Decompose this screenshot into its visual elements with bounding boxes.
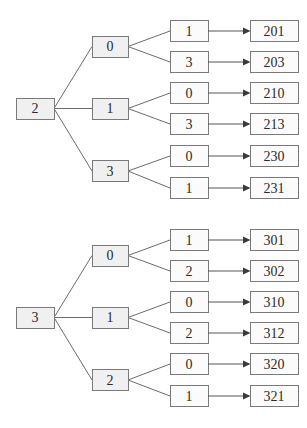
tree1-b1-c0-label: 0 <box>186 86 193 101</box>
tree1-b0-label: 0 <box>107 39 114 54</box>
edge-line <box>54 318 92 381</box>
arrow-head-icon <box>243 393 251 400</box>
tree2-b2-c0-label: 0 <box>186 357 193 372</box>
edge-line <box>128 364 170 380</box>
arrow-head-icon <box>243 237 251 244</box>
tree1-b0-c0-result: 201 <box>264 24 285 39</box>
tree1-b1-label: 1 <box>107 101 114 116</box>
tree2-b2-c1-result: 321 <box>264 389 285 404</box>
edge-line <box>54 109 92 172</box>
tree2-b2-c1-label: 1 <box>186 389 193 404</box>
tree2-b1-label: 1 <box>107 310 114 325</box>
arrow-head-icon <box>243 361 251 368</box>
tree1-b2-label: 3 <box>107 164 114 179</box>
edge-line <box>54 47 92 109</box>
tree2-b0-c1-label: 2 <box>186 264 193 279</box>
arrow-head-icon <box>243 185 251 192</box>
arrow-head-icon <box>243 90 251 97</box>
tree2-b1-c0-label: 0 <box>186 295 193 310</box>
arrow-head-icon <box>243 28 251 35</box>
tree-2: 3 0 1 301 2 302 1 0 <box>16 230 298 407</box>
tree1-b0-c0-label: 1 <box>186 24 193 39</box>
tree1-branch2-group: 3 0 230 1 231 <box>92 146 298 199</box>
tree1-b1-c1-result: 213 <box>264 117 285 132</box>
tree2-b1-c0-result: 310 <box>264 295 285 310</box>
tree1-b2-c1-label: 1 <box>186 181 193 196</box>
tree2-root-label: 3 <box>32 310 39 325</box>
arrow-head-icon <box>243 153 251 160</box>
arrow-head-icon <box>243 330 251 337</box>
tree1-b2-c1-result: 231 <box>264 181 285 196</box>
tree1-b1-c0-result: 210 <box>264 86 285 101</box>
tree2-b2-label: 2 <box>107 373 114 388</box>
edge-line <box>128 256 170 272</box>
tree1-branch1-group: 1 0 210 3 213 <box>92 83 298 135</box>
arrow-head-icon <box>243 59 251 66</box>
edge-line <box>128 380 170 396</box>
edge-line <box>128 240 170 256</box>
arrow-head-icon <box>243 268 251 275</box>
edge-line <box>128 109 170 125</box>
edge-line <box>128 171 170 188</box>
tree-diagrams: 2 0 1 201 3 203 1 0 <box>0 0 307 428</box>
arrow-head-icon <box>243 299 251 306</box>
tree2-b0-label: 0 <box>107 248 114 263</box>
tree1-b1-c1-label: 3 <box>186 117 193 132</box>
edge-line <box>128 93 170 109</box>
edge-line <box>128 318 170 334</box>
tree2-b2-c0-result: 320 <box>264 357 285 372</box>
edge-line <box>128 156 170 171</box>
tree-1: 2 0 1 201 3 203 1 0 <box>16 21 298 199</box>
tree1-b0-c1-result: 203 <box>264 55 285 70</box>
tree2-b1-c1-label: 2 <box>186 326 193 341</box>
arrow-head-icon <box>243 121 251 128</box>
tree2-b1-c1-result: 312 <box>264 326 285 341</box>
tree2-branch1-group: 1 0 310 2 312 <box>92 292 298 344</box>
tree2-b0-c0-result: 301 <box>264 233 285 248</box>
edge-line <box>128 302 170 318</box>
tree1-root-label: 2 <box>32 101 39 116</box>
tree2-b0-c0-label: 1 <box>186 233 193 248</box>
edge-line <box>128 47 170 63</box>
tree1-b2-c0-label: 0 <box>186 149 193 164</box>
tree2-b0-c1-result: 302 <box>264 264 285 279</box>
tree1-b2-c0-result: 230 <box>264 149 285 164</box>
tree1-b0-c1-label: 3 <box>186 55 193 70</box>
tree1-branch0-group: 0 1 201 3 203 <box>92 21 298 73</box>
tree2-branch2-group: 2 0 320 1 321 <box>92 354 298 407</box>
tree2-branch0-group: 0 1 301 2 302 <box>92 230 298 282</box>
edge-line <box>54 256 92 318</box>
edge-line <box>128 31 170 47</box>
